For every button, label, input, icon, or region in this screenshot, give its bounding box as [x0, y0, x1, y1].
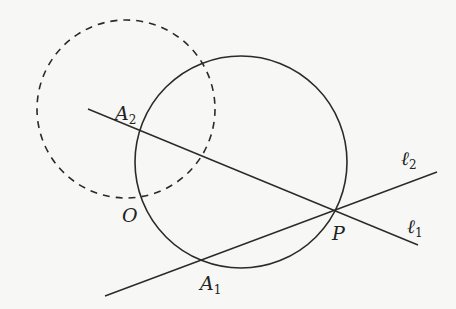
- label-o: O: [122, 204, 138, 226]
- label-a1: A1: [198, 272, 221, 297]
- diagram-canvas: A2 O A1 P ℓ2 ℓ1: [0, 0, 456, 309]
- label-l2: ℓ2: [401, 147, 417, 172]
- geometry-figure: A2 O A1 P ℓ2 ℓ1: [0, 0, 456, 309]
- label-a2: A2: [113, 102, 136, 127]
- solid-circle: [135, 56, 347, 268]
- label-l1: ℓ1: [407, 215, 423, 240]
- line-l2: [105, 172, 437, 296]
- label-p: P: [331, 222, 346, 244]
